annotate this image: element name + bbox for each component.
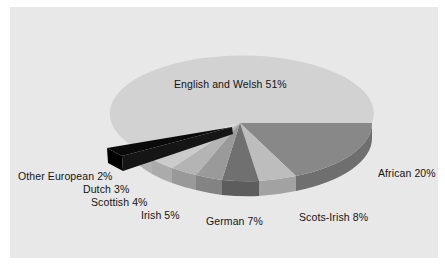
slice-side-german — [222, 180, 259, 196]
label-german: German 7% — [206, 215, 263, 227]
label-scottish: Scottish 4% — [91, 196, 148, 208]
label-dutch: Dutch 3% — [83, 183, 129, 195]
pie-chart-figure: English and Welsh 51% African 20% Scots-… — [0, 0, 445, 273]
pie-chart-graphic — [0, 0, 445, 273]
label-english-and-welsh: English and Welsh 51% — [174, 78, 287, 90]
label-irish: Irish 5% — [141, 209, 180, 221]
label-other-european: Other European 2% — [18, 170, 113, 182]
label-scots-irish: Scots-Irish 8% — [299, 211, 368, 223]
label-african: African 20% — [378, 167, 436, 179]
